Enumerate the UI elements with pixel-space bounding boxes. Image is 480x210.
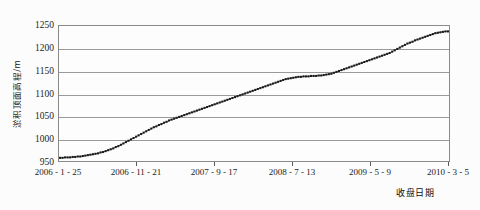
y-tick-label: 1050 xyxy=(24,111,54,121)
data-point-marker xyxy=(186,113,188,115)
data-point-marker xyxy=(394,49,396,51)
y-tick-label: 1100 xyxy=(24,89,54,99)
x-axis-title: 收盘日期 xyxy=(396,186,434,199)
data-point-marker xyxy=(361,62,363,64)
data-point-marker xyxy=(401,45,403,47)
data-point-marker xyxy=(79,155,81,157)
data-point-marker xyxy=(399,47,401,49)
x-tick-mark xyxy=(370,162,371,166)
data-point-marker xyxy=(130,138,132,140)
data-point-marker xyxy=(330,73,332,75)
data-point-marker xyxy=(313,75,315,77)
data-point-marker xyxy=(396,48,398,50)
data-point-marker xyxy=(84,155,86,157)
data-point-marker xyxy=(348,66,350,68)
data-point-marker xyxy=(171,119,173,121)
data-point-marker xyxy=(444,30,446,32)
data-point-marker xyxy=(323,74,325,76)
data-point-marker xyxy=(234,96,236,98)
x-tick-label: 2006 - 1 - 25 xyxy=(35,167,82,177)
data-point-marker xyxy=(155,125,157,127)
data-point-marker xyxy=(173,118,175,120)
data-point-marker xyxy=(105,150,107,152)
data-point-marker xyxy=(226,99,228,101)
data-point-marker xyxy=(115,146,117,148)
data-point-marker xyxy=(188,112,190,114)
data-point-marker xyxy=(315,75,317,77)
data-point-marker xyxy=(135,136,137,138)
data-point-marker xyxy=(254,89,256,91)
data-point-marker xyxy=(107,149,109,151)
data-point-marker xyxy=(74,156,76,158)
data-point-marker xyxy=(125,141,127,143)
data-point-marker xyxy=(335,71,337,73)
data-point-marker xyxy=(201,108,203,110)
data-point-marker xyxy=(94,153,96,155)
data-point-marker xyxy=(82,155,84,157)
data-point-marker xyxy=(203,107,205,109)
data-point-marker xyxy=(183,114,185,116)
plot-area xyxy=(58,25,450,162)
data-point-marker xyxy=(424,36,426,38)
x-tick-label: 2008 - 7 - 13 xyxy=(269,167,316,177)
data-point-marker xyxy=(59,157,61,159)
data-point-marker xyxy=(310,75,312,77)
data-point-marker xyxy=(275,82,277,84)
data-point-marker xyxy=(439,31,441,33)
chart-figure: 淤积顶面高程/m 950100010501100115012001250 200… xyxy=(0,0,480,210)
data-point-marker xyxy=(318,74,320,76)
data-point-marker xyxy=(150,128,152,130)
data-point-marker xyxy=(61,157,63,159)
y-tick-label: 1150 xyxy=(24,66,54,76)
data-point-marker xyxy=(300,76,302,78)
data-point-marker xyxy=(419,38,421,40)
data-point-marker xyxy=(351,65,353,67)
data-point-marker xyxy=(229,98,231,100)
series-line xyxy=(60,31,448,157)
data-point-marker xyxy=(343,68,345,70)
x-tick-mark xyxy=(214,162,215,166)
x-tick-mark xyxy=(292,162,293,166)
x-tick-label: 2007 - 9 - 17 xyxy=(191,167,238,177)
data-point-marker xyxy=(214,103,216,105)
data-point-marker xyxy=(117,145,119,147)
data-point-marker xyxy=(112,147,114,149)
data-point-marker xyxy=(292,77,294,79)
data-point-marker xyxy=(338,70,340,72)
x-tick-mark xyxy=(136,162,137,166)
data-point-marker xyxy=(211,104,213,106)
data-point-marker xyxy=(97,152,99,154)
data-point-marker xyxy=(414,39,416,41)
data-point-marker xyxy=(69,156,71,158)
data-point-marker xyxy=(127,140,129,142)
data-point-marker xyxy=(100,151,102,153)
data-point-marker xyxy=(249,91,251,93)
data-point-marker xyxy=(356,64,358,66)
data-point-marker xyxy=(432,33,434,35)
data-point-marker xyxy=(287,78,289,80)
data-point-marker xyxy=(193,110,195,112)
data-point-marker xyxy=(429,34,431,36)
data-point-marker xyxy=(247,92,249,94)
data-point-marker xyxy=(366,60,368,62)
data-point-marker xyxy=(272,83,274,85)
data-point-marker xyxy=(242,93,244,95)
data-point-marker xyxy=(269,83,271,85)
data-point-marker xyxy=(165,121,167,123)
data-series-scatter xyxy=(59,26,449,161)
data-point-marker xyxy=(406,43,408,45)
data-point-marker xyxy=(328,73,330,75)
data-point-marker xyxy=(72,156,74,158)
data-point-marker xyxy=(381,55,383,57)
data-point-marker xyxy=(158,124,160,126)
data-point-marker xyxy=(221,101,223,103)
data-point-marker xyxy=(363,61,365,63)
x-tick-label: 2006 - 11 - 21 xyxy=(111,167,162,177)
data-point-marker xyxy=(434,32,436,34)
data-point-marker xyxy=(67,156,69,158)
data-point-marker xyxy=(148,129,150,131)
y-tick-label: 1200 xyxy=(24,43,54,53)
data-point-marker xyxy=(437,32,439,34)
data-point-marker xyxy=(153,126,155,128)
data-point-marker xyxy=(346,67,348,69)
